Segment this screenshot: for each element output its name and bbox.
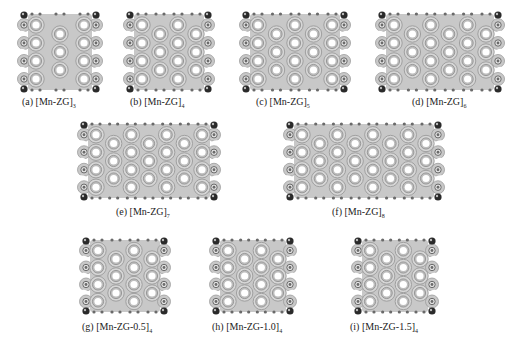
panel-caption: (a) [Mn-ZG]3 bbox=[22, 96, 76, 109]
density-panel-b bbox=[120, 8, 218, 96]
caption-text: (f) [Mn-ZG] bbox=[332, 206, 382, 217]
caption-text: (i) [Mn-ZG-1.5] bbox=[350, 321, 415, 332]
caption-text: (b) [Mn-ZG] bbox=[130, 96, 181, 107]
charge-density-plot bbox=[14, 8, 106, 96]
density-panel-a bbox=[14, 8, 106, 96]
charge-density-plot bbox=[76, 234, 174, 318]
charge-density-plot bbox=[206, 234, 300, 318]
caption-text: (c) [Mn-ZG] bbox=[256, 96, 307, 107]
panel-caption: (d) [Mn-ZG]6 bbox=[412, 96, 466, 109]
caption-text: (a) [Mn-ZG] bbox=[22, 96, 73, 107]
charge-density-plot bbox=[280, 118, 448, 204]
caption-subscript: 3 bbox=[73, 103, 76, 109]
caption-subscript: 4 bbox=[149, 328, 152, 334]
density-panel-h bbox=[206, 234, 300, 318]
charge-density-plot bbox=[74, 118, 224, 204]
panel-caption: (h) [Mn-ZG-1.0]4 bbox=[212, 321, 282, 334]
caption-text: (g) [Mn-ZG-0.5] bbox=[82, 321, 149, 332]
caption-subscript: 7 bbox=[167, 213, 170, 219]
caption-subscript: 8 bbox=[382, 213, 385, 219]
panel-caption: (b) [Mn-ZG]4 bbox=[130, 96, 184, 109]
density-panel-e bbox=[74, 118, 224, 204]
density-panel-d bbox=[372, 8, 508, 96]
caption-subscript: 4 bbox=[415, 328, 418, 334]
density-panel-f bbox=[280, 118, 448, 204]
panel-caption: (c) [Mn-ZG]5 bbox=[256, 96, 310, 109]
panel-caption: (f) [Mn-ZG]8 bbox=[332, 206, 385, 219]
panel-caption: (e) [Mn-ZG]7 bbox=[116, 206, 170, 219]
density-panel-i bbox=[348, 234, 442, 318]
caption-text: (e) [Mn-ZG] bbox=[116, 206, 167, 217]
density-panel-g bbox=[76, 234, 174, 318]
panel-caption: (g) [Mn-ZG-0.5]4 bbox=[82, 321, 152, 334]
charge-density-plot bbox=[372, 8, 508, 96]
panel-caption: (i) [Mn-ZG-1.5]4 bbox=[350, 321, 418, 334]
caption-text: (h) [Mn-ZG-1.0] bbox=[212, 321, 279, 332]
caption-subscript: 5 bbox=[307, 103, 310, 109]
density-panel-c bbox=[236, 8, 354, 96]
caption-subscript: 4 bbox=[181, 103, 184, 109]
charge-density-plot bbox=[348, 234, 442, 318]
charge-density-plot bbox=[120, 8, 218, 96]
caption-text: (d) [Mn-ZG] bbox=[412, 96, 463, 107]
caption-subscript: 6 bbox=[463, 103, 466, 109]
charge-density-plot bbox=[236, 8, 354, 96]
caption-subscript: 4 bbox=[279, 328, 282, 334]
